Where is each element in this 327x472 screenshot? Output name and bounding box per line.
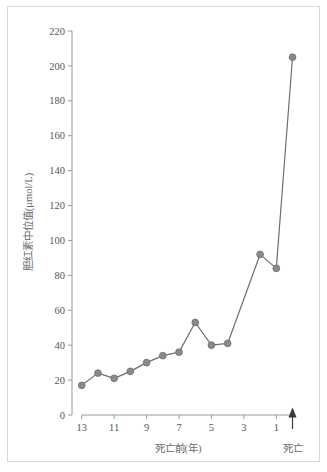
x-tick-label: 1 <box>274 422 279 433</box>
y-tick-label: 120 <box>49 200 65 211</box>
line-chart-plot: 020406080100120140160180200220 131197531… <box>0 0 327 472</box>
x-tick-label: 5 <box>209 422 214 433</box>
y-tick-label: 40 <box>55 340 66 351</box>
y-tick-label: 180 <box>49 95 65 106</box>
data-point-marker <box>176 349 183 356</box>
y-axis-title: 胆红素中位值(μmol/L) <box>22 172 35 271</box>
x-tick-label: 9 <box>144 422 149 433</box>
death-annotation-label: 死亡 <box>283 442 303 454</box>
data-point-marker <box>289 54 296 61</box>
data-point-marker <box>208 342 215 349</box>
x-tick-label: 7 <box>176 422 181 433</box>
y-tick-label: 140 <box>49 165 65 176</box>
y-axis: 020406080100120140160180200220 <box>49 26 72 421</box>
data-series-bilirubin <box>78 54 296 389</box>
x-axis: 131197531 <box>76 415 292 433</box>
y-tick-label: 0 <box>60 410 65 421</box>
y-tick-label: 220 <box>49 26 65 37</box>
chart-figure: 020406080100120140160180200220 131197531… <box>0 0 327 472</box>
data-point-marker <box>127 368 134 375</box>
y-tick-label: 200 <box>49 61 65 72</box>
data-point-marker <box>111 375 118 382</box>
x-tick-label: 13 <box>76 422 87 433</box>
data-point-marker <box>257 251 264 258</box>
series-line <box>82 57 293 385</box>
data-point-marker <box>159 352 166 359</box>
x-tick-label: 3 <box>241 422 246 433</box>
data-point-marker <box>224 340 231 347</box>
y-tick-label: 60 <box>55 305 66 316</box>
death-annotation: 死亡 <box>283 409 303 454</box>
y-tick-label: 160 <box>49 130 65 141</box>
y-tick-label: 100 <box>49 235 65 246</box>
data-point-marker <box>78 382 85 389</box>
x-axis-title: 死亡前(年) <box>155 442 202 455</box>
data-point-marker <box>192 319 199 326</box>
data-point-marker <box>273 265 280 272</box>
data-point-marker <box>143 359 150 366</box>
data-point-marker <box>95 370 102 377</box>
y-tick-label: 80 <box>55 270 66 281</box>
x-tick-label: 11 <box>109 422 119 433</box>
y-tick-label: 20 <box>55 375 66 386</box>
up-arrow-head-icon <box>289 409 295 417</box>
